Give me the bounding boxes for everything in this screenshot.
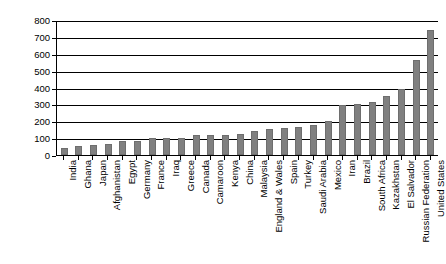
y-axis-tick-label: 400 — [20, 84, 50, 94]
bar-slot — [72, 21, 87, 155]
x-axis-label-slot: Afghanistan — [100, 160, 115, 264]
x-axis-label-slot: Germany — [129, 160, 144, 264]
bar-slot — [116, 21, 131, 155]
bar-slot — [174, 21, 189, 155]
bar — [222, 135, 229, 155]
bar-slot — [86, 21, 101, 155]
bar-slot — [233, 21, 248, 155]
bar — [75, 146, 82, 155]
bar-slot — [204, 21, 219, 155]
bar — [339, 105, 346, 155]
bar-slot — [350, 21, 365, 155]
x-axis-label-slot: United States — [423, 160, 438, 264]
x-axis-label-slot: Kenya — [218, 160, 233, 264]
bar — [251, 131, 258, 155]
bar-slot — [277, 21, 292, 155]
bar — [149, 138, 156, 155]
x-axis-label-slot: Greece — [174, 160, 189, 264]
y-axis-tick-label: 200 — [20, 117, 50, 127]
x-axis-label-slot: Malaysia — [247, 160, 262, 264]
bar-slot — [189, 21, 204, 155]
bar — [207, 135, 214, 155]
x-axis-label-slot: Spain — [276, 160, 291, 264]
bar-slot — [306, 21, 321, 155]
bar — [178, 138, 185, 155]
bar — [266, 129, 273, 155]
y-axis-tick-label: 500 — [20, 67, 50, 77]
x-axis-label-slot: Brazil — [350, 160, 365, 264]
bar-slot — [101, 21, 116, 155]
y-axis-tick-label: 300 — [20, 100, 50, 110]
x-axis-tick-label: United States — [435, 160, 445, 217]
bar-slot — [145, 21, 160, 155]
x-axis-label-slot: Russian Federation — [409, 160, 424, 264]
bar — [398, 89, 405, 155]
y-axis-tick-label: 100 — [20, 134, 50, 144]
x-axis-label-slot: England & Wales — [262, 160, 277, 264]
x-axis-label-slot: India — [56, 160, 71, 264]
bar-slot — [57, 21, 72, 155]
bar — [295, 127, 302, 155]
bar — [163, 138, 170, 155]
bar — [119, 141, 126, 155]
x-axis-label-slot: El Salvador — [394, 160, 409, 264]
plot-area — [56, 21, 438, 156]
bar — [413, 60, 420, 155]
x-axis-label-slot: Iraq — [159, 160, 174, 264]
bar — [281, 128, 288, 155]
bar-slot — [292, 21, 307, 155]
bar — [427, 30, 434, 155]
bar-slot — [160, 21, 175, 155]
bar — [325, 121, 332, 155]
bar-series — [57, 21, 438, 155]
bar — [105, 144, 112, 155]
x-axis-label-slot: Iran — [335, 160, 350, 264]
x-axis-label-slot: Japan — [85, 160, 100, 264]
bar — [383, 96, 390, 155]
bar-slot — [379, 21, 394, 155]
bar — [90, 145, 97, 155]
y-axis-tick-label: 800 — [20, 16, 50, 26]
x-axis-label-slot: Kazakhstan — [379, 160, 394, 264]
bar-slot — [218, 21, 233, 155]
bar-slot — [130, 21, 145, 155]
x-axis-label-slot: Egypt — [115, 160, 130, 264]
x-axis-label-slot: Saudi Arabia — [306, 160, 321, 264]
bar-slot — [321, 21, 336, 155]
bar — [61, 148, 68, 155]
bar-slot — [365, 21, 380, 155]
y-axis-tick-label: 700 — [20, 33, 50, 43]
x-axis-label-slot: Mexico — [320, 160, 335, 264]
bar — [369, 102, 376, 155]
x-axis-label-slot: Turkey — [291, 160, 306, 264]
x-axis-label-slot: France — [144, 160, 159, 264]
bar — [354, 104, 361, 155]
bar-slot — [409, 21, 424, 155]
bar-slot — [423, 21, 438, 155]
x-axis-label-slot: Camaroon — [203, 160, 218, 264]
bar-slot — [394, 21, 409, 155]
bar-slot — [335, 21, 350, 155]
x-axis-label-slot: Canada — [188, 160, 203, 264]
x-axis-label-slot: Ghana — [71, 160, 86, 264]
bar-chart: 0100200300400500600700800 IndiaGhanaJapa… — [0, 0, 446, 264]
bar — [237, 134, 244, 155]
x-axis-label-slot: China — [232, 160, 247, 264]
bar — [134, 141, 141, 155]
bar-slot — [262, 21, 277, 155]
y-axis-tick-label: 600 — [20, 50, 50, 60]
bar — [193, 135, 200, 155]
x-axis-labels: IndiaGhanaJapanAfghanistanEgyptGermanyFr… — [56, 160, 438, 264]
x-axis-label-slot: South Africa — [364, 160, 379, 264]
bar — [310, 125, 317, 155]
y-axis-tick-label: 0 — [20, 151, 50, 161]
bar-slot — [248, 21, 263, 155]
